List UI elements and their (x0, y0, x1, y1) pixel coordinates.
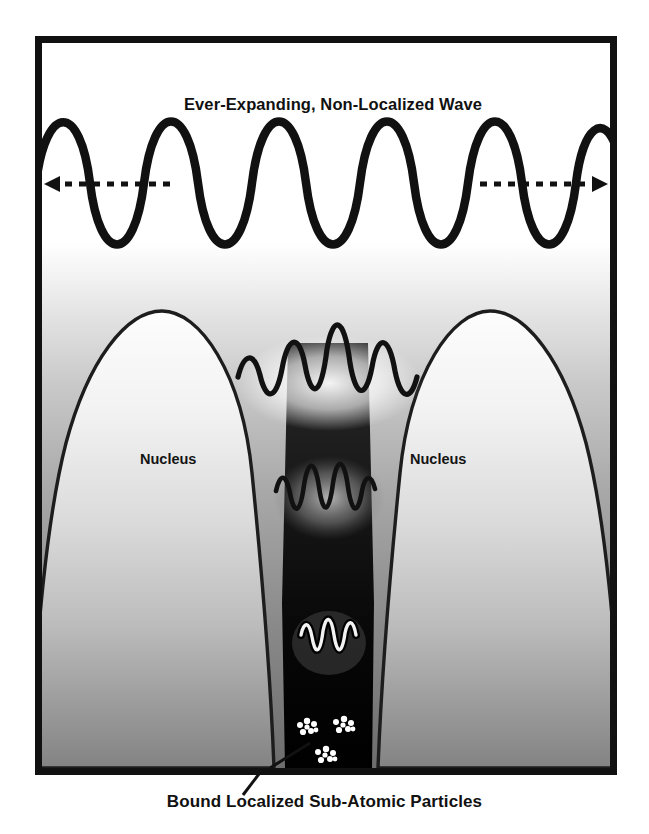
physics-diagram: Ever-Expanding, Non-Localized Wave Nucle… (0, 0, 649, 834)
bottom-caption: Bound Localized Sub-Atomic Particles (0, 792, 649, 812)
diagram-frame: Ever-Expanding, Non-Localized Wave Nucle… (35, 36, 617, 775)
diagram-canvas (42, 43, 610, 768)
